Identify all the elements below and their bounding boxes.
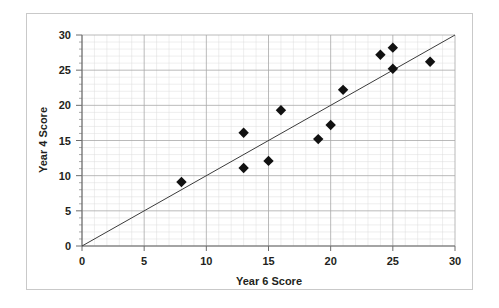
x-tick-label: 20	[325, 255, 337, 267]
x-tick-label: 15	[262, 255, 274, 267]
y-tick-label: 20	[59, 99, 71, 111]
data-point	[176, 177, 186, 187]
figure-root: 051015202530 051015202530 Year 6 Score Y…	[0, 0, 499, 308]
y-axis-title: Year 4 Score	[37, 107, 49, 173]
data-point	[338, 85, 348, 95]
data-point	[375, 49, 385, 59]
data-point	[313, 134, 323, 144]
x-axis-title: Year 6 Score	[236, 275, 302, 287]
data-point	[238, 128, 248, 138]
x-tick-labels: 051015202530	[79, 255, 461, 267]
y-tick-label: 25	[59, 64, 71, 76]
data-point	[263, 156, 273, 166]
x-tick-label: 30	[449, 255, 461, 267]
y-tick-label: 15	[59, 135, 71, 147]
x-tick-label: 25	[387, 255, 399, 267]
x-tick-label: 10	[200, 255, 212, 267]
x-tick-label: 5	[141, 255, 147, 267]
data-point	[388, 42, 398, 52]
scatter-chart: 051015202530 051015202530 Year 6 Score Y…	[0, 0, 499, 308]
y-tick-label: 30	[59, 29, 71, 41]
data-point	[276, 105, 286, 115]
y-tick-label: 0	[65, 240, 71, 252]
data-point	[238, 163, 248, 173]
y-tick-labels: 051015202530	[59, 29, 71, 252]
data-point	[425, 57, 435, 67]
x-tick-label: 0	[79, 255, 85, 267]
y-tick-label: 10	[59, 170, 71, 182]
y-tick-label: 5	[65, 205, 71, 217]
data-point	[325, 120, 335, 130]
